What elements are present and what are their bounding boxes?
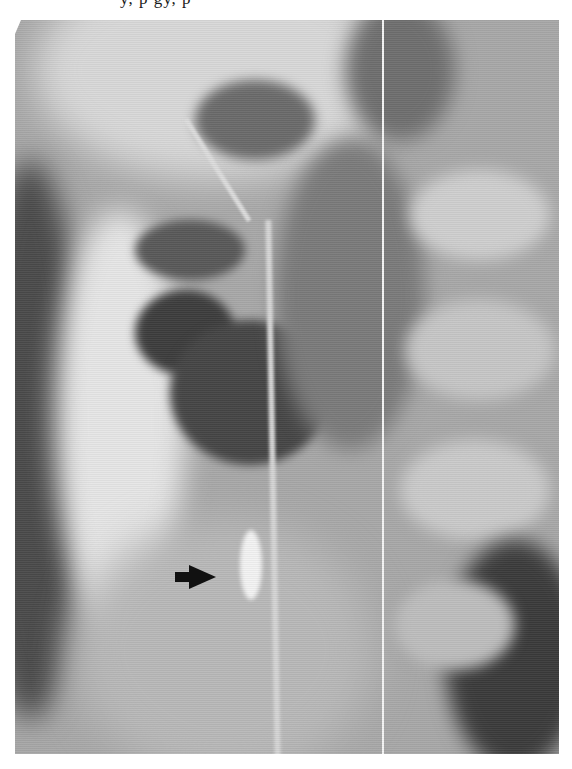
vertebra-1 xyxy=(410,170,550,260)
vertebra-3 xyxy=(400,440,550,540)
film-scratch-line xyxy=(382,20,384,754)
arrow-head xyxy=(189,565,216,589)
contrast-pool xyxy=(240,530,262,600)
bowel-loop-mid-left xyxy=(135,220,245,280)
vertebra-2 xyxy=(405,300,555,400)
radiograph-image xyxy=(15,20,559,754)
vertebra-4 xyxy=(395,580,515,670)
clipped-page-text: y, p gy, p xyxy=(120,0,500,9)
bowel-loop-upper xyxy=(195,80,315,160)
bowel-loop-right xyxy=(275,140,425,450)
